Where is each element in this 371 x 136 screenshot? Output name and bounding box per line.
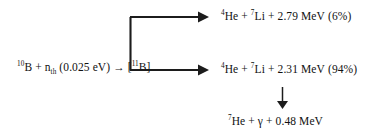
branch-upper-arrow-head bbox=[198, 12, 209, 23]
reaction-diagram: 10B + nth (0.025 eV) → [11B] 4He + 7Li +… bbox=[0, 0, 371, 136]
branch-lower-arrow-head bbox=[198, 65, 209, 76]
decay-arrow-head bbox=[277, 101, 288, 109]
branch-split-arrows-icon bbox=[0, 0, 371, 136]
